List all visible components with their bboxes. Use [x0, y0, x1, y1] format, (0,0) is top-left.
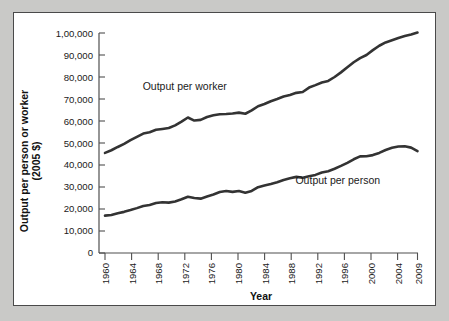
x-axis-title: Year [250, 290, 272, 302]
x-axis [99, 253, 418, 260]
chart-panel: Output per person or worker (2005 $) 1,0… [13, 12, 436, 306]
x-tick-label: 1988 [286, 263, 297, 284]
x-tick-label: 1976 [206, 263, 217, 284]
y-tick-label: 60,000 [64, 116, 93, 127]
x-tick-label: 2000 [366, 263, 377, 284]
x-tick-label: 1992 [313, 263, 324, 284]
x-tick-label: 1960 [100, 263, 111, 284]
figure-root: Output per person or worker (2005 $) 1,0… [0, 0, 449, 321]
y-axis [99, 33, 105, 253]
y-axis-title-line1: Output per person or worker [18, 90, 30, 232]
y-tick-label: 0 [88, 247, 93, 258]
y-tick-label: 80,000 [64, 72, 93, 83]
y-tick-label: 20,000 [64, 203, 93, 214]
x-tick-label: 1980 [233, 263, 244, 284]
x-tick-label: 2009 [413, 263, 424, 284]
y-axis-title-line2: (2005 $) [30, 141, 42, 180]
y-tick-label: 50,000 [64, 138, 93, 149]
x-tick-label: 1984 [260, 262, 271, 284]
y-tick-labels: 1,00,000 90,000 80,000 70,000 60,000 50,… [56, 28, 93, 258]
series-label-output-per-worker: Output per worker [143, 80, 228, 92]
x-tick-label: 1968 [153, 263, 164, 284]
x-tick-label: 1964 [127, 262, 138, 284]
y-tick-label: 70,000 [64, 94, 93, 105]
series-label-output-per-person: Output per person [295, 174, 380, 186]
line-output-per-worker [105, 33, 418, 153]
y-tick-label: 40,000 [64, 159, 93, 170]
x-tick-label: 1972 [180, 263, 191, 284]
y-tick-label: 10,000 [64, 225, 93, 236]
x-tick-label: 1996 [339, 263, 350, 284]
y-tick-label: 90,000 [64, 50, 93, 61]
chart-canvas: Output per person or worker (2005 $) 1,0… [14, 13, 434, 304]
y-tick-label: 30,000 [64, 181, 93, 192]
y-tick-label: 1,00,000 [56, 28, 93, 39]
x-tick-label: 2004 [393, 262, 404, 284]
x-tick-labels: 1960 1964 1968 1972 1976 1980 1984 1988 … [100, 262, 424, 284]
figure-caption-ghost [18, 309, 438, 320]
y-axis-title: Output per person or worker (2005 $) [18, 90, 42, 232]
